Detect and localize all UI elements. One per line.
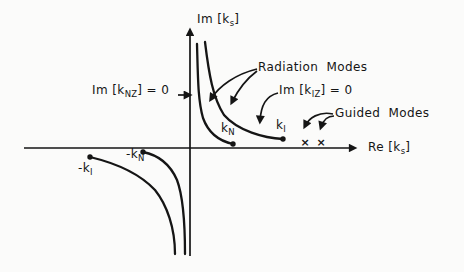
neg-ki-point-label: -kI [78, 162, 93, 178]
ki-point-label: kI [276, 119, 286, 135]
real-axis-label: Re [ks] [368, 141, 410, 157]
im-kiz-zero-label: Im [kIZ] = 0 [279, 84, 352, 100]
ki-branch-point-dot [280, 136, 285, 141]
guided-mode-x-mark-2: × [316, 136, 325, 149]
radiation-modes-arrow-2 [232, 71, 257, 102]
kn-branch-point-dot [230, 141, 235, 146]
kn-point-label: kN [221, 122, 235, 138]
im-kiz-leader-arrow [260, 93, 278, 121]
guided-modes-arrow-2 [321, 116, 334, 127]
im-knz-zero-label: Im [kNZ] = 0 [92, 84, 169, 100]
imaginary-axis-label: Im [ks] [197, 13, 239, 29]
neg-ki-branch-point-dot [87, 154, 92, 159]
branch-curve-neg-ki-lower [90, 157, 175, 254]
radiation-modes-arrow-1 [211, 69, 257, 99]
neg-kn-point-label: -kN [126, 148, 145, 164]
guided-modes-arrow-1 [305, 113, 333, 126]
guided-mode-x-mark-1: × [300, 136, 309, 149]
guided-modes-label: Guided Modes [335, 107, 429, 121]
radiation-modes-label: Radiation Modes [258, 61, 367, 75]
mode-diagram-figure: × × Im [ks] Re [ks] Im [kNZ] = 0 Radiati… [0, 0, 464, 272]
